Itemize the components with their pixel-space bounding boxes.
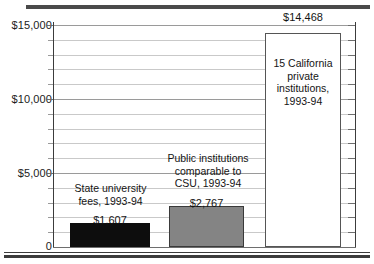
caption-bar-1: State university fees, 1993-94 (58, 182, 163, 207)
bar-public-institutions-comparable[interactable] (169, 206, 244, 247)
caption-bar-2-line-3: CSU, 1993-94 (152, 177, 264, 190)
top-rule (26, 5, 370, 9)
caption-bar-3-line-1: 15 California (266, 57, 340, 70)
caption-bar-3: 15 California private institutions, 1993… (266, 57, 340, 107)
x-axis (53, 247, 356, 248)
right-tick-13000 (348, 55, 355, 56)
gridline-15000 (53, 25, 356, 26)
bar-chart-figure: $15,000 $10,000 $5,000 0 (0, 0, 374, 264)
right-tick-4000 (348, 188, 355, 189)
caption-bar-2: Public institutions comparable to CSU, 1… (152, 152, 264, 190)
right-tick-5000 (348, 173, 355, 174)
caption-bar-3-line-2: private (266, 70, 340, 83)
right-tick-15000 (348, 25, 355, 26)
right-tick-2000 (348, 217, 355, 218)
left-tick-15000 (46, 25, 53, 26)
right-tick-10000 (348, 99, 355, 100)
right-tick-14000 (348, 40, 355, 41)
caption-bar-1-line-2: fees, 1993-94 (58, 195, 163, 208)
caption-bar-3-line-4: 1993-94 (266, 95, 340, 108)
y-axis-left (53, 22, 54, 248)
right-tick-1000 (348, 232, 355, 233)
caption-bar-2-line-1: Public institutions (152, 152, 264, 165)
caption-bar-1-line-1: State university (58, 182, 163, 195)
right-tick-7000 (348, 143, 355, 144)
y-axis-right (355, 22, 356, 248)
value-label-bar-1: $1,607 (70, 214, 150, 226)
bottom-rule-thin (4, 252, 370, 253)
bottom-rule-thick (4, 255, 370, 258)
right-tick-12000 (348, 69, 355, 70)
caption-bar-2-line-2: comparable to (152, 165, 264, 178)
y-axis-label-0: 0 (46, 241, 52, 252)
left-tick-5000 (46, 173, 53, 174)
right-tick-6000 (348, 158, 355, 159)
caption-bar-3-line-3: institutions, (266, 82, 340, 95)
right-tick-8000 (348, 129, 355, 130)
right-tick-3000 (348, 203, 355, 204)
left-tick-10000 (46, 99, 53, 100)
bar-state-university-fees[interactable] (70, 223, 150, 247)
value-label-bar-3: $14,468 (265, 11, 341, 23)
right-tick-11000 (348, 84, 355, 85)
value-label-bar-2: $2,767 (169, 197, 244, 209)
right-tick-9000 (348, 114, 355, 115)
